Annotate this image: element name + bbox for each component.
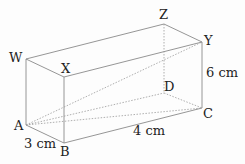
vertex-label-D: D (164, 80, 174, 93)
diagonal-AY (26, 42, 202, 125)
vertex-label-A: A (14, 119, 23, 132)
vertex-label-Z: Z (159, 8, 168, 21)
hidden-edges (26, 24, 202, 125)
vertex-label-W: W (9, 51, 22, 64)
edge-XY (64, 42, 202, 77)
cuboid-diagram: W X Z Y D C A B 3 cm 4 cm 6 cm (0, 0, 245, 164)
vertex-label-C: C (203, 107, 213, 120)
edge-AD (26, 93, 164, 125)
edge-ZY (164, 24, 202, 42)
edge-WX (26, 59, 64, 77)
vertex-label-X: X (61, 62, 70, 75)
vertex-label-Y: Y (204, 34, 213, 47)
edge-WZ (26, 24, 164, 59)
edge-DC (164, 93, 202, 108)
dimension-height: 6 cm (206, 66, 238, 79)
dimension-length: 4 cm (133, 124, 165, 137)
vertex-label-B: B (60, 145, 70, 158)
diagonal-AC (26, 108, 202, 125)
dimension-width: 3 cm (24, 137, 56, 150)
